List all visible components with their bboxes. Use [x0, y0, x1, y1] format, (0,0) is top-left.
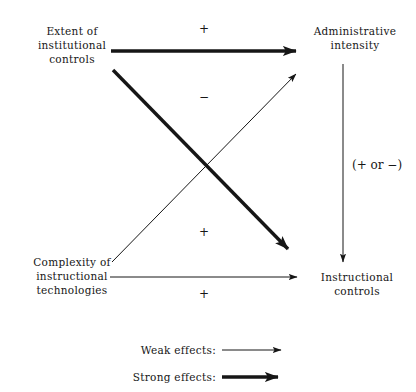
node-label-line: technologies — [8, 283, 136, 297]
node-label-line: Instructional — [300, 270, 414, 284]
legend-strong-label: Strong effects: — [86, 370, 216, 384]
node-label-line: institutional — [12, 38, 132, 52]
sign-descending-diagonal: − — [186, 91, 222, 103]
legend-weak-label: Weak effects: — [96, 343, 216, 357]
node-label-line: Extent of — [12, 24, 132, 38]
path-diagram: Extent of institutional controls Adminis… — [0, 0, 416, 392]
node-extent-institutional-controls: Extent of institutional controls — [12, 24, 132, 66]
sign-top-horizontal: + — [186, 23, 222, 35]
sign-ascending-diagonal: + — [186, 226, 222, 238]
node-label-line: Administrative — [296, 24, 414, 38]
node-label-line: controls — [300, 284, 414, 298]
node-label-line: intensity — [296, 38, 414, 52]
node-label-line: instructional — [8, 269, 136, 283]
node-label-line: Complexity of — [8, 255, 136, 269]
node-label-line: controls — [12, 52, 132, 66]
node-complexity-instructional-technologies: Complexity of instructional technologies — [8, 255, 136, 297]
sign-vertical: (+ or −) — [352, 159, 416, 171]
sign-bottom-horizontal: + — [186, 288, 222, 300]
node-instructional-controls: Instructional controls — [300, 270, 414, 298]
node-administrative-intensity: Administrative intensity — [296, 24, 414, 52]
